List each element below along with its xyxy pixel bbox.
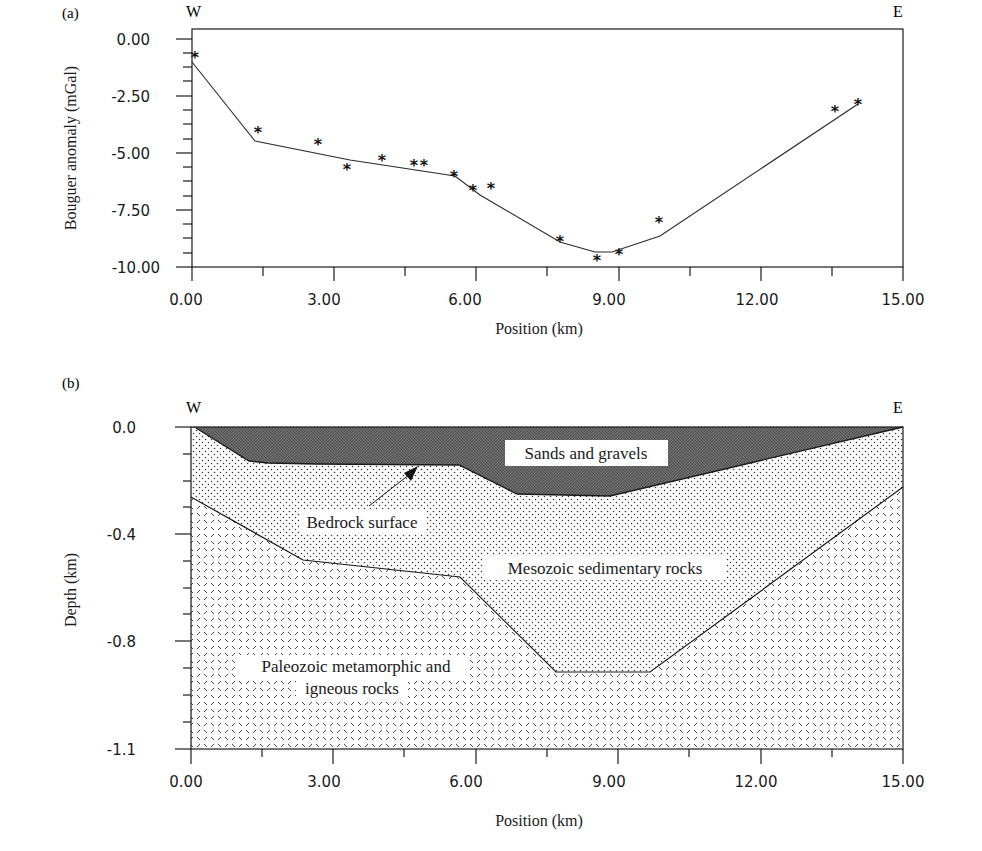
y-tick-label: -0.8 (107, 633, 136, 651)
figure: (a) W E 0.00 -2.50 -5.0 (0, 0, 982, 851)
panel-b-east-label: E (893, 399, 903, 416)
data-point-asterisk: * (469, 181, 478, 200)
panel-b: (b) W E Sands and gravels Bedrock surfac… (62, 375, 924, 830)
panel-a-y-axis-label: Bouguer anomaly (mGal) (62, 66, 80, 230)
x-tick-label: 6.00 (448, 291, 481, 309)
data-point-asterisk: * (378, 151, 387, 170)
bedrock-surface-label: Bedrock surface (307, 513, 418, 532)
x-tick-label: 12.00 (735, 773, 778, 791)
panel-b-west-label: W (186, 399, 202, 416)
data-point-asterisk: * (593, 251, 602, 270)
panel-a-west-label: W (186, 3, 202, 20)
panel-a-x-axis-label: Position (km) (495, 320, 583, 338)
panel-b-y-axis (175, 427, 191, 749)
data-point-asterisk: * (420, 156, 429, 175)
data-point-asterisk: * (556, 232, 565, 251)
panel-b-x-axis (191, 749, 903, 764)
observed-points: * * * * * * * * * * * * * * * * (191, 48, 863, 270)
panel-a-label: (a) (62, 5, 79, 22)
panel-b-y-axis-label: Depth (km) (62, 553, 80, 627)
panel-a-y-axis (176, 39, 192, 267)
x-tick-label: 6.00 (449, 773, 482, 791)
data-point-asterisk: * (831, 102, 840, 121)
sands-gravels-label: Sands and gravels (525, 444, 648, 463)
data-point-asterisk: * (343, 160, 352, 179)
data-point-asterisk: * (655, 213, 664, 232)
panel-b-x-tick-labels: 0.00 3.00 6.00 9.00 12.00 15.00 (169, 773, 924, 791)
x-tick-label: 0.00 (169, 773, 202, 791)
x-tick-label: 12.00 (736, 291, 779, 309)
panel-b-label: (b) (62, 375, 80, 392)
x-tick-label: 15.00 (882, 773, 925, 791)
x-tick-label: 0.00 (169, 291, 202, 309)
data-point-asterisk: * (314, 135, 323, 154)
panel-a-x-tick-labels: 0.00 3.00 6.00 9.00 12.00 15.00 (169, 291, 924, 309)
y-tick-label: -0.4 (107, 526, 136, 544)
x-tick-label: 3.00 (307, 291, 340, 309)
model-curve (192, 62, 858, 252)
data-point-asterisk: * (487, 179, 496, 198)
x-tick-label: 3.00 (307, 773, 340, 791)
panel-b-x-axis-label: Position (km) (495, 812, 583, 830)
data-point-asterisk: * (410, 156, 419, 175)
data-point-asterisk: * (615, 245, 624, 264)
panel-a-east-label: E (893, 3, 903, 20)
data-point-asterisk: * (854, 95, 863, 114)
paleozoic-label-line1: Paleozoic metamorphic and (262, 657, 451, 676)
x-tick-label: 9.00 (592, 773, 625, 791)
x-tick-label: 9.00 (592, 291, 625, 309)
y-tick-label: 0.0 (112, 419, 136, 437)
data-point-asterisk: * (254, 123, 263, 142)
y-tick-label: -2.50 (111, 88, 150, 106)
panel-b-y-tick-labels: 0.0 -0.4 -0.8 -1.1 (107, 419, 136, 759)
panel-a-plot-frame (192, 29, 903, 267)
panel-a-y-tick-labels: 0.00 -2.50 -5.00 -7.50 -10.00 (111, 31, 160, 277)
y-tick-label: 0.00 (117, 31, 150, 49)
y-tick-label: -10.00 (112, 259, 160, 277)
paleozoic-label-line2: igneous rocks (305, 679, 399, 698)
data-point-asterisk: * (191, 48, 200, 67)
panel-a: (a) W E 0.00 -2.50 -5.0 (62, 3, 924, 338)
data-point-asterisk: * (450, 167, 459, 186)
y-tick-label: -1.1 (107, 741, 136, 759)
mesozoic-label: Mesozoic sedimentary rocks (508, 559, 703, 578)
x-tick-label: 15.00 (882, 291, 925, 309)
y-tick-label: -5.00 (111, 145, 150, 163)
y-tick-label: -7.50 (111, 202, 150, 220)
panel-a-x-axis (192, 267, 903, 281)
